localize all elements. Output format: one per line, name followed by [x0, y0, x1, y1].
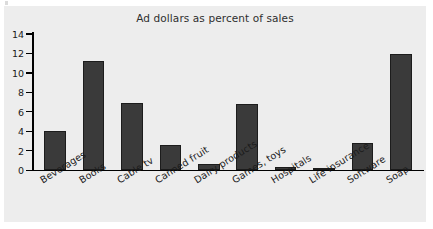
- x-axis-tick-label: Books: [77, 161, 108, 186]
- x-axis-tick-labels: BeveragesBooksCable tvCanned fruitDairy …: [4, 6, 426, 222]
- x-axis-tick-label: Cable tv: [115, 155, 155, 186]
- corner-speck: [5, 1, 8, 5]
- chart-figure: Ad dollars as percent of sales 024681012…: [0, 0, 433, 229]
- x-axis-tick-label: Soap: [384, 163, 410, 185]
- chart-panel: Ad dollars as percent of sales 024681012…: [4, 6, 426, 222]
